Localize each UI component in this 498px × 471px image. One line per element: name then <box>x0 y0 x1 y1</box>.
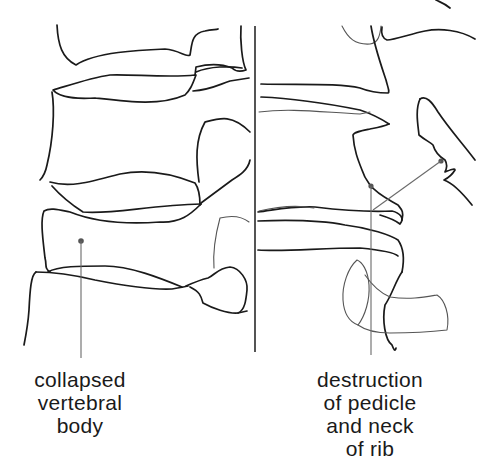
right-vertebral-upper <box>258 207 402 224</box>
label-line: of rib <box>300 437 440 460</box>
vertebral-body-main <box>40 92 53 180</box>
annotations <box>78 158 443 358</box>
label-collapsed-vertebral-body: collapsed vertebral body <box>20 368 140 437</box>
label-line: of pedicle <box>300 391 440 414</box>
leader-line-right-diagonal <box>373 161 441 210</box>
lower-left-edge <box>24 272 36 345</box>
right-vertebral-endplate <box>258 220 403 272</box>
label-line: body <box>20 414 140 437</box>
upper-vertebra-outline <box>57 25 218 65</box>
rib-head-outline <box>342 26 381 44</box>
rib-shaft-lower <box>259 110 370 114</box>
right-posterior-element <box>384 272 402 350</box>
vertebral-body-lower-edge <box>50 172 200 205</box>
intervertebral-disc-upper <box>53 75 196 102</box>
lower-vertebra-body <box>42 204 201 272</box>
pedicle-line <box>193 78 249 91</box>
right-pedicle-edge <box>370 185 403 220</box>
label-destruction-pedicle-rib: destruction of pedicle and neck of rib <box>300 368 440 460</box>
right-lower-contour <box>436 0 450 8</box>
upper-contour-right <box>382 27 475 40</box>
rib-head-circle <box>343 260 369 325</box>
upper-rib-contour <box>261 26 389 93</box>
label-line: destruction <box>300 368 440 391</box>
lower-facet <box>214 217 249 268</box>
rib-neck-outer <box>420 98 475 160</box>
left-panel <box>24 25 250 345</box>
lower-posterior-block <box>186 267 247 313</box>
label-line: vertebral <box>20 391 140 414</box>
destroyed-pedicle <box>353 124 389 188</box>
right-vertebral-lower <box>258 248 398 256</box>
label-line: collapsed <box>20 368 140 391</box>
lower-endplate <box>52 186 201 213</box>
label-line: and neck <box>300 414 440 437</box>
posterior-process-lower <box>201 160 250 203</box>
rib-neck-fragment <box>417 99 472 205</box>
right-panel <box>258 0 475 350</box>
